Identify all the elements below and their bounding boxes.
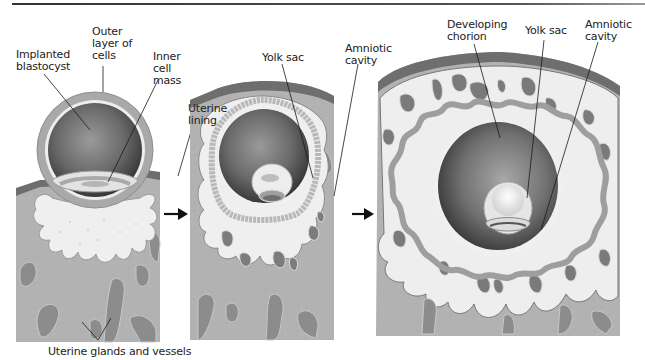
label-uterine-lining: Uterine lining [188, 103, 227, 127]
label-implanted-blastocyst: Implanted blastocyst [16, 49, 70, 73]
yolk-sac [492, 184, 524, 216]
implantation-diagram: Implanted blastocyst Outer layer of cell… [0, 0, 645, 360]
label-uterine-glands-and-vessels: Uterine glands and vessels [48, 346, 191, 358]
right-arrow-icon [164, 208, 188, 220]
label-developing-chorion: Developing chorion [447, 19, 507, 43]
label-yolk-sac: Yolk sac [525, 25, 567, 37]
panel-stage-3 [376, 40, 620, 336]
label-amniotic-cavity: Amniotic cavity [585, 19, 632, 43]
label-yolk-sac: Yolk sac [262, 52, 304, 64]
panel-stage-1 [16, 66, 192, 342]
label-outer-layer-of-cells: Outer layer of cells [92, 26, 132, 62]
label-amniotic-cavity: Amniotic cavity [345, 43, 392, 67]
label-inner-cell-mass: Inner cell mass [153, 51, 181, 87]
right-arrow-icon [352, 208, 374, 220]
